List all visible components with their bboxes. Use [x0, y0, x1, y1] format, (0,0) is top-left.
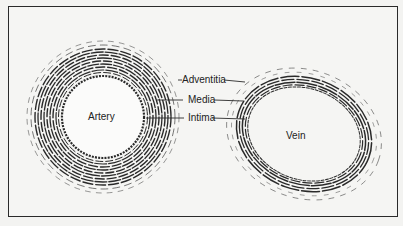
label-adventitia: Adventitia — [182, 75, 226, 85]
label-vein: Vein — [286, 131, 305, 141]
label-intima: Intima — [188, 113, 215, 123]
label-artery: Artery — [88, 112, 115, 122]
label-media: Media — [188, 95, 215, 105]
